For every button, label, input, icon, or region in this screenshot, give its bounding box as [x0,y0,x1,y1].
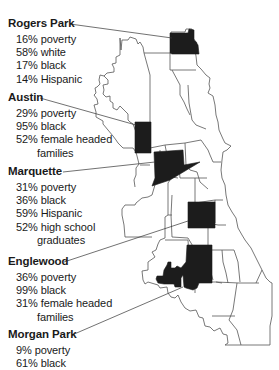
stat-line: graduates [8,234,95,247]
stat-line: 36% poverty [8,271,112,284]
stat-line: 61% black [8,357,77,370]
austin-region [135,122,151,153]
district-name: Englewood [8,255,112,268]
stat-line: 59% Hispanic [8,207,95,220]
district-austin: Austin 29% poverty 95% black 52% female … [8,91,112,160]
stat-line: families [8,147,112,160]
stat-line: families [8,311,112,324]
stat-line: 95% black [8,120,112,133]
district-morgan-park: Morgan Park 9% poverty 61% black [8,328,77,370]
rogers-park-region [170,29,199,54]
stat-line: 58% white [8,46,82,59]
stat-line: 17% black [8,59,82,72]
district-name: Marquette [8,165,95,178]
district-name: Morgan Park [8,328,77,341]
district-englewood: Englewood 36% poverty 99% black 31% fema… [8,255,112,324]
marquette-region [152,150,200,186]
district-rogers-park: Rogers Park 16% poverty 58% white 17% bl… [8,17,82,86]
stat-line: 99% black [8,284,112,297]
city-outline [120,29,272,345]
morgan-park-region [156,245,212,290]
stat-line: 14% Hispanic [8,73,82,86]
stat-line: 16% poverty [8,33,82,46]
stat-line: 9% poverty [8,344,77,357]
stat-line: 31% female headed [8,297,112,310]
stat-line: 29% poverty [8,107,112,120]
englewood-region [188,202,215,228]
district-name: Austin [8,91,112,104]
district-marquette: Marquette 31% poverty 36% black 59% Hisp… [8,165,95,247]
stat-line: 36% black [8,194,95,207]
district-name: Rogers Park [8,17,82,30]
rogers-park-leader [70,24,172,38]
stat-line: 52% high school [8,221,95,234]
stat-line: 52% female headed [8,133,112,146]
stat-line: 31% poverty [8,181,95,194]
